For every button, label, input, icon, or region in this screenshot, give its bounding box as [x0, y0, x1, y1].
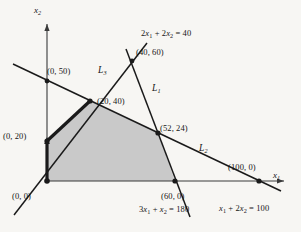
y-axis-arrow-icon — [44, 24, 49, 31]
figure-canvas: x2 x1 2x1 + 2x2 = 40 3x1 + x2 = 180 x1 +… — [0, 0, 301, 232]
point-label-60-0: (60, 0) — [161, 192, 184, 201]
point-label-52-24: (52, 24) — [160, 124, 188, 133]
equation-label-2x1-2x2-40: 2x1 + 2x2 = 40 — [141, 29, 191, 38]
line-label-L3: L3 — [98, 66, 107, 76]
vertex-dot — [44, 178, 50, 184]
y-axis-label: x2 — [34, 6, 41, 15]
vertex-dot — [172, 178, 177, 183]
point-label-40-60: (40, 60) — [136, 48, 164, 57]
vertex-dot — [45, 79, 50, 84]
point-label-20-40: (20, 40) — [97, 97, 125, 106]
line-label-L2: L2 — [199, 144, 208, 154]
vertex-dot — [130, 59, 135, 64]
feasible-region-shading — [47, 101, 175, 181]
point-label-0-50: (0, 50) — [47, 67, 70, 76]
vertex-dot — [44, 138, 49, 143]
vertex-dot — [87, 98, 92, 103]
point-label-0-20: (0, 20) — [3, 132, 26, 141]
vertex-dot — [256, 178, 261, 183]
point-label-0-0: (0, 0) — [12, 192, 31, 201]
x-axis-label: x1 — [273, 171, 280, 180]
equation-label-3x1-x2-180: 3x1 + x2 = 180 — [139, 205, 189, 214]
equation-label-x1-2x2-100: x1 + 2x2 = 100 — [219, 204, 269, 213]
point-label-100-0: (100, 0) — [228, 163, 256, 172]
line-label-L1: L1 — [152, 84, 161, 94]
